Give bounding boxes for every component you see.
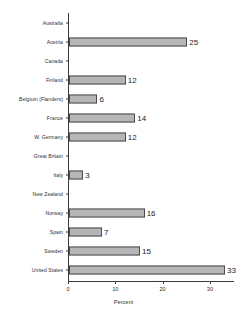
bar-value-label: 16 [147,209,156,218]
bar-value-label: 33 [227,266,236,275]
x-axis-tick-label: 0 [66,286,69,292]
bar-row: Belgium (Flanders)6 [68,89,224,108]
x-axis-tick [163,281,164,284]
category-label: Spain [50,229,63,235]
bar [69,247,140,256]
bar-row: France14 [68,108,224,127]
category-label: Great Britain [34,153,63,159]
plot-area: AustraliaAustria25CanadaFinland12Belgium… [68,13,224,280]
bar-row: Austria25 [68,32,224,51]
bar [69,171,83,180]
category-label: Norway [45,210,63,216]
category-label: Sweden [44,248,63,254]
y-axis-tick [66,60,69,61]
category-label: United States [32,267,63,273]
x-axis-tick [68,281,69,284]
category-label: Finland [46,77,63,83]
bar-value-label: 15 [142,247,151,256]
bar-row: New Zealand [68,185,224,204]
y-axis-tick [66,270,69,271]
y-axis-tick [66,98,69,99]
x-axis-tick [115,281,116,284]
bar-row: Australia [68,13,224,32]
bar-row: Italy3 [68,166,224,185]
bar-row: Great Britain [68,147,224,166]
bar [69,94,97,103]
category-label: Austria [47,39,63,45]
y-axis-tick [66,251,69,252]
y-axis-tick [66,22,69,23]
y-axis-tick [66,213,69,214]
bar-row: Canada [68,51,224,70]
category-label: Italy [53,172,63,178]
bar-value-label: 12 [128,132,137,141]
category-label: Australia [43,20,63,26]
bar-value-label: 6 [99,94,103,103]
bar-row: W. Germany12 [68,127,224,146]
bar [69,132,126,141]
bar-row: Sweden15 [68,242,224,261]
y-axis-tick [66,194,69,195]
y-axis-tick [66,136,69,137]
bar-chart: AustraliaAustria25CanadaFinland12Belgium… [0,0,247,321]
category-label: France [47,115,63,121]
bar [69,113,135,122]
bar-value-label: 12 [128,75,137,84]
bar [69,37,187,46]
bar-row: Spain7 [68,223,224,242]
category-label: W. Germany [34,134,63,140]
bar-row: United States33 [68,261,224,280]
bar [69,228,102,237]
y-axis-tick [66,41,69,42]
x-axis-tick-label: 20 [159,286,165,292]
category-label: New Zealand [32,191,63,197]
y-axis-tick [66,156,69,157]
y-axis-tick [66,175,69,176]
y-axis-tick [66,117,69,118]
bar [69,266,225,275]
category-label: Canada [45,58,63,64]
x-axis-tick-label: 10 [112,286,118,292]
bar [69,75,126,84]
bar-value-label: 25 [189,37,198,46]
bar-value-label: 3 [85,171,89,180]
y-axis-tick [66,79,69,80]
bar-value-label: 14 [137,113,146,122]
x-axis-title: Percent [0,299,247,305]
bar-row: Finland12 [68,70,224,89]
bar-row: Norway16 [68,204,224,223]
x-axis-tick-label: 30 [207,286,213,292]
x-axis-tick [210,281,211,284]
bar-value-label: 7 [104,228,108,237]
category-label: Belgium (Flanders) [19,96,63,102]
y-axis-tick [66,232,69,233]
bar [69,209,145,218]
